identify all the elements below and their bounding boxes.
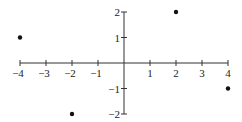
x-tick-label: −2 [64, 67, 76, 79]
data-point [70, 112, 74, 116]
x-tick-label: −3 [38, 67, 50, 79]
x-tick-label: 2 [173, 67, 179, 79]
x-tick-label: −4 [12, 67, 24, 79]
x-tick-label: −1 [90, 67, 102, 79]
data-point [174, 10, 178, 14]
axes [20, 12, 228, 114]
y-tick-label: −1 [108, 83, 120, 95]
x-tick-label: 4 [225, 67, 231, 79]
y-tick-label: 2 [115, 6, 121, 18]
coordinate-plane: −4−3−2−1123421−1−2 [0, 0, 242, 122]
y-tick-label: −2 [108, 108, 120, 120]
data-point [226, 86, 230, 90]
x-tick-label: 3 [199, 67, 205, 79]
data-point [18, 35, 22, 39]
y-tick-label: 1 [115, 32, 121, 44]
x-tick-label: 1 [147, 67, 153, 79]
